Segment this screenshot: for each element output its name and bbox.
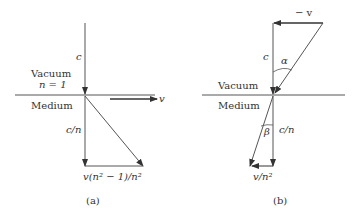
- label-c-over-n-b: c/n: [279, 124, 294, 135]
- label-bottom-vector-a: v(n² − 1)/n²: [83, 171, 142, 182]
- label-c-over-n-a: c/n: [66, 124, 81, 135]
- label-c-a: c: [76, 51, 82, 62]
- label-minus-v-b: − v: [295, 7, 313, 18]
- panel-a: c Vacuum n = 1 Medium v c/n v(n² − 1)/n²…: [15, 23, 165, 206]
- relativistic-aberration-diagram: c Vacuum n = 1 Medium v c/n v(n² − 1)/n²…: [0, 0, 357, 215]
- label-v-a: v: [159, 93, 165, 104]
- label-vacuum-b: Vacuum: [217, 80, 259, 91]
- caption-b: (b): [273, 195, 287, 206]
- alpha-arc-b: [273, 68, 292, 72]
- label-alpha-b: α: [281, 55, 288, 66]
- label-c-b: c: [263, 51, 269, 62]
- panel-b: − v c α Vacuum Medium β c/n v/n² (b): [202, 7, 345, 206]
- label-vacuum-a: Vacuum: [30, 68, 72, 79]
- label-medium-a: Medium: [31, 100, 73, 111]
- label-n-a: n = 1: [39, 79, 67, 90]
- resultant-vector-a: [85, 96, 143, 166]
- label-beta-b: β: [263, 126, 270, 137]
- label-bottom-vector-b: v/n²: [253, 171, 272, 182]
- caption-a: (a): [86, 195, 100, 206]
- label-medium-b: Medium: [218, 100, 260, 111]
